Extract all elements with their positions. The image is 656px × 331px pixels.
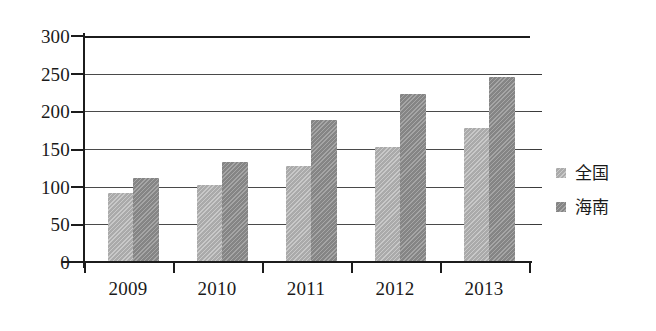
y-axis-label-100: 100 [10, 178, 70, 197]
bar-hainan-2009 [133, 178, 159, 262]
y-tick-0 [71, 261, 84, 263]
gridline-300 [84, 36, 530, 38]
y-axis-label-150: 150 [10, 140, 70, 159]
gridline-200 [84, 111, 530, 112]
x-axis-line [62, 261, 532, 263]
bar-hainan-2011 [311, 120, 337, 262]
legend-item-national: 全国 [556, 156, 651, 190]
legend-item-hainan: 海南 [556, 190, 651, 224]
bar-national-2012 [375, 147, 400, 262]
legend-swatch-national [556, 168, 566, 178]
plot-area [84, 36, 530, 262]
y-tick-300 [71, 35, 84, 37]
x-tick-0 [84, 262, 86, 273]
bar-national-2010 [197, 185, 222, 262]
gridline-250 [84, 74, 530, 75]
legend-label-national: 全国 [575, 164, 609, 182]
x-axis-label-2010: 2010 [172, 279, 262, 299]
y-tick-50 [71, 224, 84, 226]
bar-national-2009 [108, 193, 133, 262]
y-axis-label-250: 250 [10, 65, 70, 84]
right-tick-100 [530, 187, 542, 188]
y-axis-label-200: 200 [10, 102, 70, 121]
y-tick-100 [71, 186, 84, 188]
x-axis-label-2009: 2009 [83, 279, 173, 299]
bar-hainan-2013 [489, 77, 515, 262]
y-tick-150 [71, 149, 84, 151]
bar-hainan-2012 [400, 94, 426, 262]
x-axis-label-2011: 2011 [261, 279, 351, 299]
x-axis-label-2012: 2012 [350, 279, 440, 299]
x-tick-2 [262, 262, 264, 273]
y-axis-label-0: 0 [10, 253, 70, 272]
y-axis-label-300: 300 [10, 27, 70, 46]
y-axis-label-50: 50 [10, 215, 70, 234]
legend-swatch-hainan [556, 202, 566, 212]
y-tick-200 [71, 111, 84, 113]
chart-legend: 全国 海南 [556, 156, 651, 224]
x-tick-3 [351, 262, 353, 273]
x-tick-1 [173, 262, 175, 273]
legend-label-hainan: 海南 [575, 198, 609, 216]
x-tick-5 [529, 262, 531, 273]
bar-hainan-2010 [222, 162, 248, 262]
right-tick-250 [530, 74, 542, 75]
bar-national-2013 [464, 128, 489, 262]
bar-national-2011 [286, 166, 311, 262]
right-tick-50 [530, 224, 542, 225]
y-tick-250 [71, 73, 84, 75]
right-tick-150 [530, 149, 542, 150]
bar-chart: 300 250 200 150 100 50 0 2009 2010 2011 … [0, 0, 656, 331]
x-tick-4 [440, 262, 442, 273]
right-tick-200 [530, 111, 542, 112]
x-axis-label-2013: 2013 [439, 279, 529, 299]
